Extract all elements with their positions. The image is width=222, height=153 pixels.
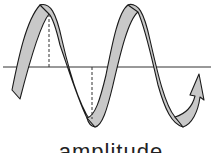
- wave-diagram: [0, 0, 222, 153]
- caption-label: amplitude: [0, 141, 222, 153]
- wave-ribbon: [12, 4, 204, 127]
